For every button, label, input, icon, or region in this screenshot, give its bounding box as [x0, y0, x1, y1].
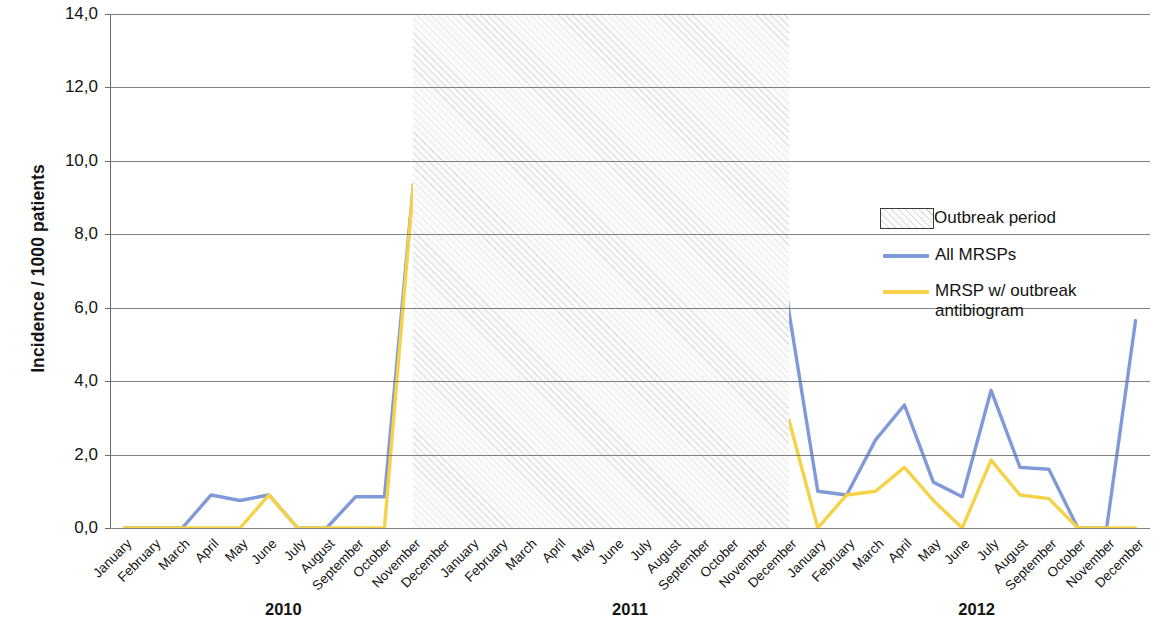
y-axis-tick-label: 2,0 [38, 445, 98, 465]
y-axis-tick-label: 12,0 [38, 77, 98, 97]
y-axis-tickmark [105, 308, 110, 309]
y-axis-tick-label: 10,0 [38, 151, 98, 171]
blue-line-swatch-icon [883, 254, 929, 258]
y-axis-line [110, 14, 111, 528]
legend-label-outbreak-period: Outbreak period [934, 208, 1056, 228]
incidence-line-chart: Incidence / 1000 patients 0,02,04,06,08,… [0, 0, 1153, 634]
gridline [110, 14, 1150, 15]
legend-item-all-mrsps: All MRSPs [880, 245, 1130, 265]
x-axis-month-label: April [192, 536, 222, 566]
x-axis-month-label: June [248, 536, 279, 567]
gridline [110, 455, 1150, 456]
x-axis-month-label: April [885, 536, 915, 566]
x-axis-month-label: March [849, 536, 886, 573]
y-axis-tick-label: 14,0 [38, 4, 98, 24]
x-axis-year-label: 2011 [612, 600, 648, 619]
y-axis-tickmark [105, 14, 110, 15]
gridline [110, 87, 1150, 88]
hatched-box-icon [880, 208, 934, 229]
outbreak-period-band [413, 14, 789, 528]
x-axis-month-label: May [915, 536, 944, 565]
x-axis-month-label: April [539, 536, 569, 566]
gridline [110, 161, 1150, 162]
y-axis-tickmark [105, 381, 110, 382]
x-axis-year-label: 2012 [958, 600, 995, 619]
legend-label-antibiogram-line1: MRSP w/ outbreak [935, 281, 1076, 301]
y-axis-tick-label: 4,0 [38, 371, 98, 391]
legend-label-antibiogram-line2: antibiogram [935, 301, 1076, 321]
y-axis-tickmark [105, 455, 110, 456]
y-axis-tickmark [105, 87, 110, 88]
chart-legend: Outbreak period All MRSPs MRSP w/ outbre… [880, 208, 1130, 321]
legend-label-antibiogram: MRSP w/ outbreak antibiogram [935, 281, 1076, 321]
x-axis-month-label: May [222, 536, 251, 565]
legend-item-outbreak-period: Outbreak period [880, 208, 1130, 229]
y-axis-tickmark [105, 234, 110, 235]
legend-label-all-mrsps: All MRSPs [935, 245, 1016, 265]
y-axis-tick-label: 0,0 [38, 518, 98, 538]
y-axis-tick-labels: 0,02,04,06,08,010,012,014,0 [38, 0, 98, 634]
x-axis-month-label: June [942, 536, 973, 567]
x-axis-month-label: May [569, 536, 598, 565]
y-axis-tick-label: 6,0 [38, 298, 98, 318]
yellow-line-swatch-icon [883, 290, 929, 294]
y-axis-tick-label: 8,0 [38, 224, 98, 244]
x-axis-year-label: 2010 [265, 600, 302, 619]
x-axis-month-label: March [156, 536, 193, 573]
x-axis-month-labels: JanuaryFebruaryMarchAprilMayJuneJulyAugu… [110, 528, 1150, 598]
legend-item-antibiogram: MRSP w/ outbreak antibiogram [880, 281, 1130, 321]
x-axis-month-label: March [502, 536, 539, 573]
y-axis-tickmark [105, 161, 110, 162]
gridline [110, 381, 1150, 382]
x-axis-month-label: June [595, 536, 626, 567]
